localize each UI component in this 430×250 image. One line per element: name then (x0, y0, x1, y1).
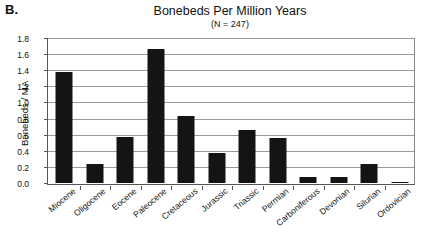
bar[interactable] (56, 72, 73, 183)
y-axis-tick-mark (44, 151, 48, 152)
panel-letter-label: B. (5, 2, 18, 17)
bar-slot (141, 39, 172, 183)
bar-slot (324, 39, 355, 183)
y-axis-tick-mark (44, 70, 48, 71)
y-axis-tick-label: 1.0 (0, 98, 29, 108)
bar[interactable] (208, 153, 225, 183)
y-axis-tick-mark (44, 167, 48, 168)
plot-area: 0.00.20.40.60.81.01.21.41.61.8 (47, 38, 415, 185)
chart-subtitle-sample-size: (N = 247) (45, 19, 415, 30)
bar-slot (263, 39, 294, 183)
bar-slot (202, 39, 233, 183)
y-axis-tick-mark (44, 119, 48, 120)
y-axis-tick-mark (44, 135, 48, 136)
y-axis-tick-label: 0.2 (0, 163, 29, 173)
bar[interactable] (300, 177, 317, 183)
x-axis-labels-layer: MioceneOligoceneEocenePaleoceneCretaceou… (47, 186, 415, 250)
y-axis-tick-label: 1.8 (0, 34, 29, 44)
figure-panel-b: B. Bonebeds Per Million Years (N = 247) … (0, 0, 430, 250)
y-axis-tick-mark (44, 183, 48, 184)
y-axis-tick-label: 1.6 (0, 50, 29, 60)
bar[interactable] (330, 177, 347, 183)
bar[interactable] (269, 138, 286, 183)
y-axis-tick-label: 1.4 (0, 66, 29, 76)
x-axis-category-label: Triassic (232, 186, 261, 212)
y-axis-tick-mark (44, 38, 48, 39)
bar[interactable] (239, 130, 256, 183)
bar[interactable] (178, 116, 195, 183)
x-axis-category-label: Devonian (318, 186, 352, 217)
bar-slot (171, 39, 202, 183)
bar[interactable] (117, 137, 134, 183)
bar[interactable] (86, 164, 103, 183)
x-axis-category-label: Oligocene (72, 186, 108, 218)
y-axis-tick-label: 0.0 (0, 179, 29, 189)
bar-slot (293, 39, 324, 183)
y-axis-tick-label: 0.8 (0, 115, 29, 125)
bar-slot (385, 39, 416, 183)
chart-title: Bonebeds Per Million Years (45, 4, 415, 19)
bar-slot (49, 39, 80, 183)
y-axis-tick-mark (44, 102, 48, 103)
bar[interactable] (361, 164, 378, 183)
y-axis-tick-label: 1.2 (0, 82, 29, 92)
bar-slot (232, 39, 263, 183)
y-axis-tick-mark (44, 86, 48, 87)
y-axis-tick-label: 0.4 (0, 147, 29, 157)
bar-slot (80, 39, 111, 183)
y-axis-tick-mark (44, 54, 48, 55)
x-axis-category-label: Jurassic (199, 186, 229, 214)
bar[interactable] (391, 182, 408, 183)
bar-slot (110, 39, 141, 183)
y-axis-tick-label: 0.6 (0, 131, 29, 141)
title-block: Bonebeds Per Million Years (N = 247) (45, 4, 415, 30)
bars-layer (49, 39, 413, 183)
bar-slot (354, 39, 385, 183)
bar[interactable] (147, 49, 164, 183)
